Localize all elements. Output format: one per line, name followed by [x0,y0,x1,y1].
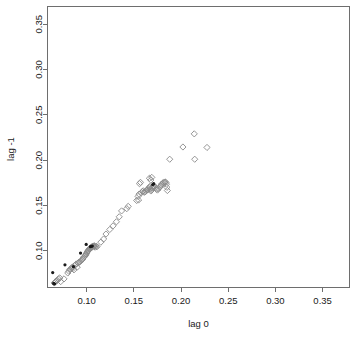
data-point-diamond [192,156,198,162]
data-point-diamond [167,156,173,162]
y-axis-tick-labels: 0.100.150.200.250.300.35 [33,15,44,260]
data-points-layer [51,131,210,286]
x-tick-label: 0.20 [172,295,191,306]
y-tick-label: 0.20 [33,151,44,170]
y-tick-label: 0.15 [33,196,44,215]
data-point-diamond [191,131,197,137]
data-point-diamond [98,239,104,245]
y-tick-label: 0.30 [33,60,44,79]
data-point-diamond [204,144,210,150]
x-axis-tick-labels: 0.100.150.200.250.300.35 [77,295,331,306]
y-tick-label: 0.10 [33,242,44,260]
y-axis-ticks [43,24,48,251]
x-tick-label: 0.15 [125,295,144,306]
data-point-dot [53,282,56,285]
data-point-dot [85,243,88,246]
x-axis-title: lag 0 [188,318,209,329]
y-tick-label: 0.25 [33,106,44,125]
x-tick-label: 0.25 [219,295,238,306]
data-point-dot [79,251,82,254]
y-axis-title: lag -1 [5,137,16,161]
data-point-dot [51,271,54,274]
scatter-plot-figure: 0.100.150.200.250.300.35 0.100.150.200.2… [0,0,358,337]
x-tick-label: 0.10 [77,295,96,306]
plot-canvas: 0.100.150.200.250.300.35 0.100.150.200.2… [0,0,358,337]
y-tick-label: 0.35 [33,15,44,33]
x-tick-label: 0.35 [313,295,332,306]
data-point-dot [152,182,155,185]
data-point-dot [91,244,94,247]
data-point-dot [63,263,66,266]
data-point-dot [72,265,75,268]
x-tick-label: 0.30 [266,295,285,306]
data-point-diamond [180,144,186,150]
x-axis-ticks [87,288,323,293]
